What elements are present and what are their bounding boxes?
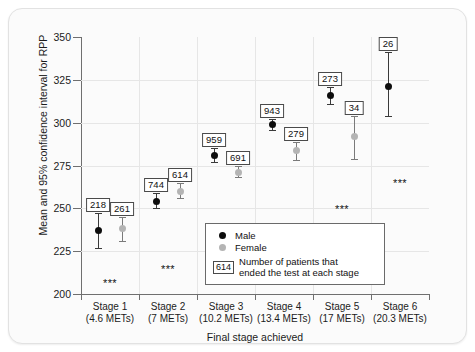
male-marker-icon xyxy=(219,232,226,239)
legend-count-line1: Number of patients that xyxy=(239,256,338,267)
marker-female xyxy=(293,147,300,154)
patient-count-box: 959 xyxy=(202,133,226,147)
error-bar-cap-upper xyxy=(211,148,218,149)
legend-label-male: Male xyxy=(235,230,256,241)
patient-count-box: 279 xyxy=(284,127,308,141)
error-bar-cap-upper xyxy=(327,87,334,88)
marker-female xyxy=(235,169,242,176)
marker-male xyxy=(269,121,276,128)
count-box-icon: 614 xyxy=(213,261,234,274)
error-bar-cap-lower xyxy=(153,208,160,209)
marker-female xyxy=(351,133,358,140)
x-category-name: Stage 4 xyxy=(267,301,301,312)
marker-male xyxy=(153,198,160,205)
error-bar-cap-upper xyxy=(385,52,392,53)
patient-count-box: 261 xyxy=(110,202,134,216)
patient-count-box: 943 xyxy=(260,104,284,118)
error-bar-cap-lower xyxy=(351,159,358,160)
error-bar-cap-lower xyxy=(269,130,276,131)
figure-panel: 350325300275250225200 Mean and 95% confi… xyxy=(8,8,467,344)
error-bar-cap-lower xyxy=(385,116,392,117)
legend-item-patient-count: 614 Number of patients that ended the te… xyxy=(213,256,378,278)
x-category-name: Stage 6 xyxy=(383,301,417,312)
patient-count-box: 744 xyxy=(144,178,168,192)
y-tick-label: 225 xyxy=(25,246,71,256)
y-axis-label: Mean and 95% confidence interval for RPP xyxy=(37,25,49,245)
x-category-mets: (20.3 METs) xyxy=(358,313,442,325)
significance-marker: *** xyxy=(335,205,349,213)
marker-male xyxy=(327,92,334,99)
error-bar-cap-upper xyxy=(95,213,102,214)
error-bar-cap-lower xyxy=(327,104,334,105)
error-bar-cap-upper xyxy=(235,166,242,167)
x-category-name: Stage 1 xyxy=(93,301,127,312)
x-category-name: Stage 2 xyxy=(151,301,185,312)
y-tick-label: 200 xyxy=(25,289,71,299)
legend: Male Female 614 Number of patients that … xyxy=(205,223,385,285)
x-tick xyxy=(371,294,372,300)
legend-label-patient-count: Number of patients that ended the test a… xyxy=(239,256,359,278)
x-category-name: Stage 3 xyxy=(209,301,243,312)
gridline-vertical xyxy=(197,37,198,294)
x-tick xyxy=(197,294,198,300)
error-bar-cap-lower xyxy=(177,198,184,199)
x-category-name: Stage 5 xyxy=(325,301,359,312)
patient-count-box: 691 xyxy=(226,151,250,165)
error-bar-cap-lower xyxy=(293,160,300,161)
error-bar-cap-lower xyxy=(95,248,102,249)
female-marker-icon xyxy=(219,244,226,251)
significance-marker: *** xyxy=(161,265,175,273)
y-tick xyxy=(73,37,82,38)
x-tick xyxy=(139,294,140,300)
x-tick xyxy=(81,294,82,300)
x-tick xyxy=(313,294,314,300)
error-bar-cap-lower xyxy=(211,162,218,163)
error-bar-cap-lower xyxy=(235,177,242,178)
error-bar-cap-upper xyxy=(119,217,126,218)
error-bar-cap-upper xyxy=(293,142,300,143)
marker-female xyxy=(177,188,184,195)
error-bar-cap-upper xyxy=(177,183,184,184)
error-bar-cap-upper xyxy=(351,116,358,117)
x-axis-label: Final stage achieved xyxy=(81,331,429,343)
x-category-label: Stage 6(20.3 METs) xyxy=(358,301,442,325)
patient-count-box: 26 xyxy=(379,37,398,51)
legend-item-male: Male xyxy=(213,230,378,241)
error-bar-cap-lower xyxy=(119,241,126,242)
patient-count-box: 614 xyxy=(168,168,192,182)
patient-count-box: 34 xyxy=(345,101,364,115)
legend-item-female: Female xyxy=(213,242,378,253)
x-tick xyxy=(429,294,430,300)
x-tick xyxy=(255,294,256,300)
legend-label-female: Female xyxy=(235,242,267,253)
marker-male xyxy=(211,152,218,159)
gridline-vertical xyxy=(139,37,140,294)
significance-marker: *** xyxy=(103,279,117,287)
significance-marker: *** xyxy=(393,179,407,187)
patient-count-box: 273 xyxy=(318,72,342,86)
error-bar-cap-upper xyxy=(153,193,160,194)
patient-count-box: 218 xyxy=(86,198,110,212)
legend-count-line2: ended the test at each stage xyxy=(239,267,359,278)
